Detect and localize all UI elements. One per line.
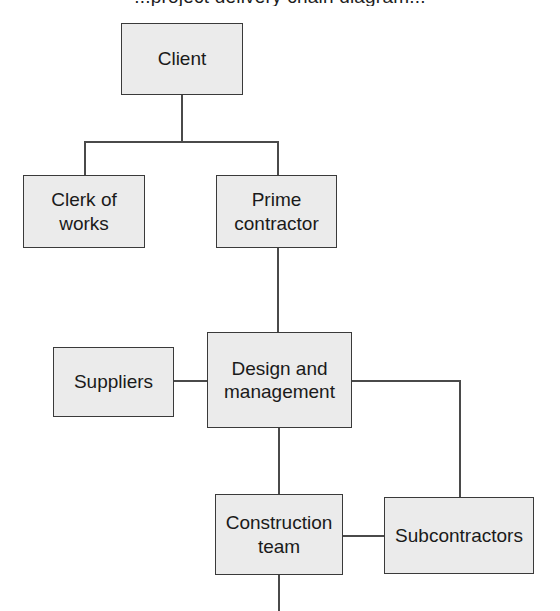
node-clerk-of-works-label: Clerk ofworks [28, 188, 140, 234]
connector-bus-to-clerk [84, 141, 86, 176]
connector-client-to-bus [181, 95, 183, 143]
connector-construction-to-subcontractors [342, 535, 385, 537]
org-chart-diagram: ...project delivery chain diagram... Cli… [0, 0, 560, 611]
connector-bus-to-prime [277, 141, 279, 176]
node-client-label: Client [126, 47, 238, 70]
node-subcontractors-label: Subcontractors [389, 524, 529, 547]
diagram-title: ...project delivery chain diagram... [0, 0, 560, 6]
node-prime-contractor[interactable]: Primecontractor [216, 175, 337, 248]
connector-prime-to-design [277, 247, 279, 333]
node-design-and-management-label: Design andmanagement [212, 357, 347, 403]
connector-suppliers-to-design [173, 380, 208, 382]
node-construction-team[interactable]: Constructionteam [215, 494, 343, 575]
connector-construction-stub-down [278, 574, 280, 611]
node-subcontractors[interactable]: Subcontractors [384, 497, 534, 574]
connector-design-to-subcontractors-horizontal [351, 380, 461, 382]
node-suppliers[interactable]: Suppliers [53, 347, 174, 417]
node-clerk-of-works[interactable]: Clerk ofworks [23, 175, 145, 248]
node-design-and-management[interactable]: Design andmanagement [207, 332, 352, 428]
node-client[interactable]: Client [121, 23, 243, 95]
node-suppliers-label: Suppliers [58, 370, 169, 393]
connector-design-to-subcontractors-vertical [459, 380, 461, 498]
node-prime-contractor-label: Primecontractor [221, 188, 332, 234]
node-construction-team-label: Constructionteam [220, 511, 338, 557]
connector-design-to-construction [278, 427, 280, 495]
connector-bus-horizontal [84, 141, 279, 143]
